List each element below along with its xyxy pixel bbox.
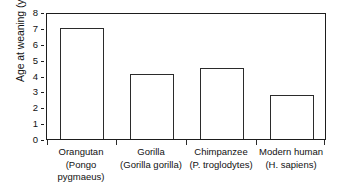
x-tick-mark (186, 140, 187, 145)
category-scientific-name: (P. troglodytes) (186, 159, 256, 172)
x-category-label: Chimpanzee(P. troglodytes) (186, 146, 256, 171)
y-tick-label: 2 (22, 103, 38, 113)
y-axis-tick-labels: 012345678 (22, 0, 38, 186)
y-tick-mark (41, 140, 44, 141)
x-category-label: Orangutan(Pongo pygmaeus) (46, 146, 116, 184)
category-common-name: Modern human (256, 146, 326, 159)
y-tick-label: 8 (22, 8, 38, 18)
y-tick-mark (41, 13, 44, 14)
y-tick-label: 6 (22, 40, 38, 50)
category-common-name: Orangutan (46, 146, 116, 159)
y-tick-mark (41, 92, 44, 93)
category-scientific-name: (H. sapiens) (256, 159, 326, 172)
x-tick-mark (47, 140, 48, 145)
x-tick-mark (116, 140, 117, 145)
y-tick-label: 7 (22, 24, 38, 34)
category-scientific-name: (Pongo pygmaeus) (46, 159, 116, 184)
y-tick-mark (41, 29, 44, 30)
y-tick-mark (41, 77, 44, 78)
x-tick-mark (324, 140, 325, 145)
y-tick-mark (41, 61, 44, 62)
y-tick-label: 5 (22, 56, 38, 66)
y-tick-label: 3 (22, 87, 38, 97)
bar (200, 68, 244, 139)
y-tick-label: 4 (22, 72, 38, 82)
y-tick-mark (41, 124, 44, 125)
y-tick-label: 1 (22, 119, 38, 129)
bar-series (47, 14, 325, 139)
y-tick-label: 0 (22, 135, 38, 145)
bar-chart-figure: Age at weaning (years) 012345678 Orangut… (0, 0, 338, 186)
bar (270, 95, 314, 139)
plot-area (46, 13, 326, 140)
x-axis-category-labels: Orangutan(Pongo pygmaeus)Gorilla(Gorilla… (46, 146, 326, 186)
x-category-label: Gorilla(Gorilla gorilla) (116, 146, 186, 171)
category-common-name: Chimpanzee (186, 146, 256, 159)
bar (60, 28, 104, 139)
bar (130, 74, 174, 139)
x-tick-mark (256, 140, 257, 145)
y-tick-mark (41, 108, 44, 109)
y-tick-mark (41, 45, 44, 46)
category-scientific-name: (Gorilla gorilla) (116, 159, 186, 172)
x-category-label: Modern human(H. sapiens) (256, 146, 326, 171)
category-common-name: Gorilla (116, 146, 186, 159)
